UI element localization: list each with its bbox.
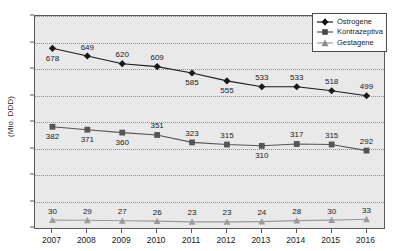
legend-item-ostrogene[interactable]: Östrogene (316, 17, 383, 27)
square-marker-icon (316, 27, 334, 37)
legend-label: Östrogene (337, 17, 372, 27)
x-axis-tick-mark (226, 229, 227, 233)
data-point-marker (189, 140, 195, 146)
legend-item-kontrazeptiva[interactable]: Kontrazeptiva (316, 27, 383, 37)
data-point-marker (363, 92, 370, 99)
x-axis-tick-label: 2011 (182, 235, 200, 245)
data-point-marker (84, 127, 90, 133)
x-axis-tick-mark (296, 229, 297, 233)
triangle-marker-icon (316, 38, 334, 48)
data-point-marker (49, 45, 56, 52)
legend-label: Kontrazeptiva (337, 27, 383, 37)
x-axis-tick-mark (331, 229, 332, 233)
x-axis-tick-label: 2008 (77, 235, 96, 245)
x-axis-tick-mark (51, 229, 52, 233)
data-point-marker (119, 60, 126, 67)
y-axis-title: (Mio. DDD) (6, 81, 15, 153)
data-point-marker (84, 52, 91, 59)
data-point-marker (293, 83, 300, 90)
data-point-marker (154, 132, 160, 138)
x-axis-tick-mark (121, 229, 122, 233)
data-point-marker (294, 141, 300, 147)
line-chart: (Mio. DDD) 0100200300400500600700800 678… (0, 0, 406, 251)
data-point-marker (154, 63, 161, 70)
series-line (52, 219, 366, 222)
x-axis-tick-label: 2010 (147, 235, 166, 245)
data-point-marker (50, 124, 56, 130)
x-axis-tick-label: 2012 (216, 235, 235, 245)
x-axis-tick-mark (261, 229, 262, 233)
x-axis-tick-mark (86, 229, 87, 233)
series-line (52, 127, 366, 151)
x-axis-tick-label: 2014 (286, 235, 305, 245)
data-point-marker (329, 142, 335, 148)
data-point-marker (224, 142, 230, 148)
diamond-marker-icon (316, 17, 334, 27)
data-point-marker (188, 69, 195, 76)
x-axis-tick-mark (156, 229, 157, 233)
series-line (52, 48, 366, 96)
x-axis-tick-label: 2009 (112, 235, 131, 245)
data-point-marker (328, 87, 335, 94)
x-axis-tick-mark (366, 229, 367, 233)
x-axis-tick-label: 2015 (321, 235, 340, 245)
legend-label: Gestagene (337, 38, 374, 48)
x-axis-tick-label: 2016 (356, 235, 375, 245)
data-point-marker (223, 77, 230, 84)
data-point-marker (119, 130, 125, 136)
data-point-marker (258, 83, 265, 90)
x-axis-tick-mark (191, 229, 192, 233)
x-axis-tick-label: 2013 (251, 235, 270, 245)
chart-legend: Östrogene Kontrazeptiva Gestagene (312, 13, 387, 52)
x-axis-tick-label: 2007 (42, 235, 61, 245)
data-point-marker (259, 143, 265, 149)
x-axis: 2007200820092010201120122013201420152016 (34, 229, 385, 251)
data-point-marker (364, 148, 370, 154)
legend-item-gestagene[interactable]: Gestagene (316, 38, 383, 48)
